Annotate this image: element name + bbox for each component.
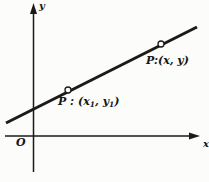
y-axis-label: y (39, 1, 45, 11)
figure-canvas (0, 0, 209, 182)
point-p1-label-prefix: P : (x (58, 95, 90, 108)
x-axis-label: x (203, 139, 209, 149)
point-marker-p1 (65, 87, 71, 93)
y-axis-arrowhead-icon (30, 3, 37, 14)
point-p1-label-suffix: ) (114, 95, 119, 108)
origin-label: O (16, 137, 26, 148)
x-axis-arrowhead-icon (189, 133, 200, 140)
coordinate-plane-figure: y x O P : (x1, y1) P:(x, y) (0, 0, 209, 182)
point-p1-label-sub-y: 1 (109, 100, 114, 109)
point-p1-label: P : (x1, y1) (58, 96, 119, 107)
point-p1-label-mid: , y (95, 95, 109, 108)
point-p1-label-sub-x: 1 (90, 100, 95, 109)
point-p-label: P:(x, y) (146, 55, 189, 66)
point-marker-p (158, 41, 164, 47)
slanted-line (6, 27, 197, 123)
